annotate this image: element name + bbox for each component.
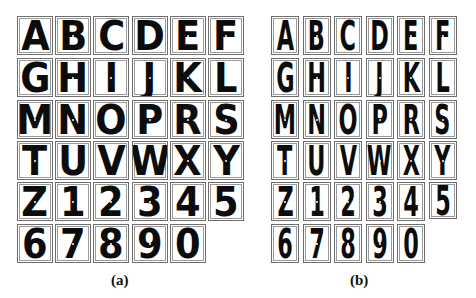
character-cell: D <box>132 16 168 55</box>
center-marker-dot <box>149 160 151 162</box>
character-cell: Z <box>271 182 299 221</box>
center-marker-dot <box>72 119 74 121</box>
center-marker-dot <box>284 35 286 37</box>
center-marker-dot <box>316 201 318 203</box>
center-marker-dot <box>72 35 74 37</box>
character-cell: M <box>17 100 53 139</box>
center-marker-dot <box>187 77 189 79</box>
center-marker-dot <box>316 160 318 162</box>
center-marker-dot <box>316 243 318 245</box>
center-marker-dot <box>72 243 74 245</box>
center-marker-dot <box>34 201 36 203</box>
center-marker-dot <box>225 201 227 203</box>
character-cell: D <box>366 16 394 55</box>
center-marker-dot <box>187 243 189 245</box>
character-cell: 2 <box>334 182 362 221</box>
character-cell: 7 <box>55 224 91 263</box>
character-cell: A <box>271 16 299 55</box>
center-marker-dot <box>187 35 189 37</box>
character-cell: 8 <box>93 224 129 263</box>
center-marker-dot <box>442 77 444 79</box>
character-cell: T <box>17 141 53 180</box>
center-marker-dot <box>187 119 189 121</box>
character-cell: U <box>55 141 91 180</box>
character-cell: F <box>208 16 244 55</box>
center-marker-dot <box>379 243 381 245</box>
character-cell: 3 <box>132 182 168 221</box>
center-marker-dot <box>225 77 227 79</box>
character-cell: 4 <box>170 182 206 221</box>
character-cell: C <box>334 16 362 55</box>
center-marker-dot <box>34 77 36 79</box>
character-cell: Z <box>17 182 53 221</box>
character-cell: 1 <box>303 182 331 221</box>
character-cell: R <box>397 100 425 139</box>
character-cell: E <box>397 16 425 55</box>
center-marker-dot <box>347 243 349 245</box>
character-cell: 0 <box>397 224 425 263</box>
center-marker-dot <box>34 35 36 37</box>
character-cell: G <box>271 58 299 97</box>
center-marker-dot <box>149 243 151 245</box>
character-cell: F <box>429 16 457 55</box>
character-cell: X <box>170 141 206 180</box>
character-cell: 5 <box>429 182 457 219</box>
character-cell: 9 <box>366 224 394 263</box>
center-marker-dot <box>347 35 349 37</box>
center-marker-dot <box>316 35 318 37</box>
character-cell: 6 <box>17 224 53 263</box>
center-marker-dot <box>410 35 412 37</box>
character-cell: N <box>303 100 331 139</box>
center-marker-dot <box>379 35 381 37</box>
character-cell: W <box>366 141 394 180</box>
center-marker-dot <box>149 201 151 203</box>
character-cell: 8 <box>334 224 362 263</box>
center-marker-dot <box>284 119 286 121</box>
character-cell: 9 <box>132 224 168 263</box>
center-marker-dot <box>225 35 227 37</box>
character-cell: 7 <box>303 224 331 263</box>
character-cell: A <box>17 16 53 55</box>
center-marker-dot <box>149 35 151 37</box>
center-marker-dot <box>347 160 349 162</box>
center-marker-dot <box>410 77 412 79</box>
character-cell: J <box>366 58 394 97</box>
center-marker-dot <box>72 77 74 79</box>
character-cell: H <box>303 58 331 97</box>
character-cell: O <box>334 100 362 139</box>
center-marker-dot <box>347 201 349 203</box>
center-marker-dot <box>316 119 318 121</box>
character-cell: C <box>93 16 129 55</box>
character-cell: I <box>93 58 129 97</box>
center-marker-dot <box>34 119 36 121</box>
center-marker-dot <box>34 160 36 162</box>
character-cell: M <box>271 100 299 139</box>
center-marker-dot <box>410 119 412 121</box>
character-cell: L <box>208 58 244 97</box>
center-marker-dot <box>284 243 286 245</box>
center-marker-dot <box>284 160 286 162</box>
character-cell: 5 <box>208 182 244 221</box>
center-marker-dot <box>149 77 151 79</box>
character-cell: S <box>429 100 457 139</box>
center-marker-dot <box>187 201 189 203</box>
character-cell: Y <box>208 141 244 180</box>
character-cell: P <box>366 100 394 139</box>
character-cell: P <box>132 100 168 139</box>
center-marker-dot <box>72 201 74 203</box>
center-marker-dot <box>225 119 227 121</box>
character-cell: T <box>271 141 299 180</box>
center-marker-dot <box>410 243 412 245</box>
character-cell: K <box>397 58 425 97</box>
character-cell: 1 <box>55 182 91 221</box>
character-cell: 4 <box>397 182 425 221</box>
center-marker-dot <box>442 35 444 37</box>
center-marker-dot <box>379 119 381 121</box>
center-marker-dot <box>410 160 412 162</box>
character-cell: E <box>170 16 206 55</box>
character-cell: B <box>55 16 91 55</box>
character-cell: V <box>93 141 129 180</box>
character-cell: 3 <box>366 182 394 221</box>
center-marker-dot <box>316 77 318 79</box>
center-marker-dot <box>347 119 349 121</box>
